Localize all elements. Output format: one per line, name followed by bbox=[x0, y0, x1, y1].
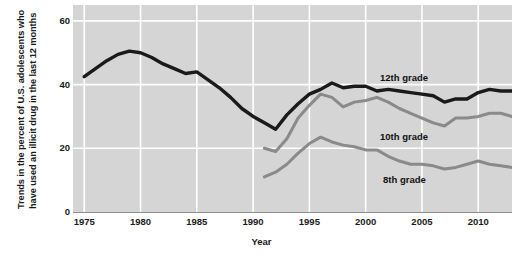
plot-area bbox=[73, 5, 512, 212]
plot-svg bbox=[73, 5, 512, 212]
series-line-8th-grade bbox=[264, 137, 512, 177]
x-axis-line bbox=[73, 212, 512, 213]
data-series-group bbox=[84, 51, 512, 177]
series-label-8th-grade: 8th grade bbox=[383, 174, 426, 185]
x-axis-tick-1985: 1985 bbox=[175, 216, 219, 227]
x-axis-tick-1995: 1995 bbox=[287, 216, 331, 227]
y-axis-tick-20: 20 bbox=[30, 142, 70, 153]
x-axis-tick-1980: 1980 bbox=[119, 216, 163, 227]
x-axis-title: Year bbox=[0, 236, 523, 247]
chart-figure: Trends in the percent of U.S. adolescent… bbox=[0, 0, 523, 269]
x-axis-tick-2010: 2010 bbox=[456, 216, 500, 227]
y-axis-tick-60: 60 bbox=[30, 15, 70, 26]
y-axis-tick-40: 40 bbox=[30, 79, 70, 90]
x-axis-tick-2000: 2000 bbox=[344, 216, 388, 227]
series-label-12th-grade: 12th grade bbox=[380, 72, 428, 83]
y-axis-title: Trends in the percent of U.S. adolescent… bbox=[0, 0, 70, 215]
x-axis-tick-1975: 1975 bbox=[62, 216, 106, 227]
series-label-10th-grade: 10th grade bbox=[380, 131, 428, 142]
y-axis-title-line-1: Trends in the percent of U.S. adolescent… bbox=[16, 10, 26, 209]
x-axis-tick-1990: 1990 bbox=[231, 216, 275, 227]
y-axis-title-line-2: have used an illicit drug in the last 12… bbox=[28, 13, 38, 209]
x-axis-tick-2005: 2005 bbox=[400, 216, 444, 227]
